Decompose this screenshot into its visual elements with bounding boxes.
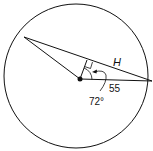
- chord-h: [24, 37, 152, 81]
- angle-arc: [84, 68, 92, 80]
- chord-label: H: [113, 56, 121, 68]
- center-point: [78, 77, 83, 82]
- arrowhead: [92, 70, 97, 74]
- perpendicular: [80, 60, 87, 79]
- radius-label: 55: [109, 83, 121, 94]
- angle-arrow-hook: [94, 71, 106, 91]
- circle-diagram: H 55 72°: [0, 0, 153, 151]
- radius-left: [24, 37, 80, 79]
- angle-label: 72°: [89, 96, 104, 107]
- radius-right: [80, 79, 152, 81]
